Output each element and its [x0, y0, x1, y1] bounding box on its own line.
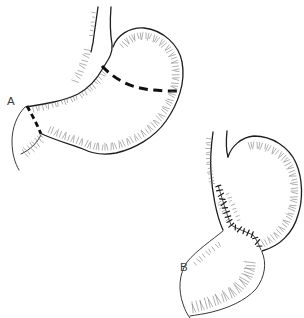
panel-b-duodenum-wall-hatching-marks — [194, 242, 221, 265]
panel-b-esophagus-right-line — [226, 131, 228, 157]
panel-a-label: A — [7, 95, 15, 107]
panel-a-duodenum-outer-line — [12, 107, 25, 170]
panel-b-suture-stitches — [218, 185, 261, 250]
panel-b-duodenum-fan-hatching-marks — [192, 262, 255, 313]
panel-a-esophagus-right-and-lesser-curvature-line — [26, 7, 112, 107]
figure-canvas: A B — [0, 0, 304, 318]
panel-b-duodenum-wall-hatching — [191, 241, 219, 264]
panel-b-duodenum-outer-line — [180, 231, 223, 318]
panel-b-duodenum-fan-hatching — [192, 262, 256, 314]
panel-a-preoperative-stomach: A — [7, 7, 183, 170]
stomach-diagram-svg: A B — [0, 0, 304, 318]
panel-b-anastomosis-suture-line — [218, 185, 261, 250]
panel-b-postoperative-anastomosis: B — [180, 131, 302, 318]
panel-a-pylorus-hatching-lower-marks — [25, 140, 43, 157]
panel-b-label: B — [180, 261, 188, 273]
panel-a-cardia-hatching-marks — [72, 49, 91, 82]
panel-b-esophagus-hatching — [212, 138, 216, 186]
panel-a-antrum-hatching-marks — [33, 71, 107, 112]
panel-a-gastric-resection-dashed-line — [102, 66, 180, 91]
panel-b-gastric-pouch-line — [228, 136, 302, 251]
panel-a-esophagus-left-line — [91, 7, 98, 52]
panel-a-cardia-hatching — [79, 50, 92, 83]
